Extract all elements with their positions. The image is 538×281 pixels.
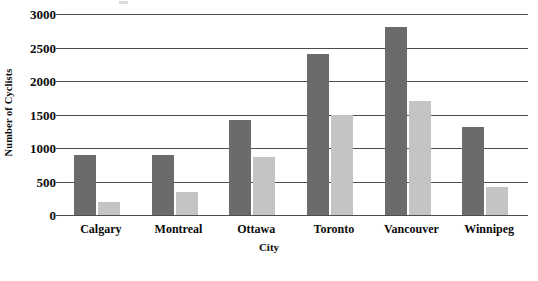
bar [229,120,251,215]
y-tick-label: 1000 [8,142,56,155]
bar [152,155,174,215]
y-tick-label: 2500 [8,41,56,54]
plot-area [62,14,528,215]
bar [486,187,508,215]
y-tick-label: 500 [8,175,56,188]
x-tick-label: Toronto [295,221,373,237]
y-tick-label: 0 [8,209,56,222]
y-axis-tick-labels: 050010001500200025003000 [0,0,56,281]
bar [462,127,484,215]
bar [331,115,353,216]
x-axis-line [62,215,528,216]
bar-chart: Number of Cyclists 050010001500200025003… [0,0,538,281]
bar [74,155,96,215]
y-tick-label: 1500 [8,108,56,121]
bar [409,101,431,215]
x-tick-label: Vancouver [373,221,451,237]
bar-group [140,14,218,215]
bar [176,192,198,215]
bar [385,27,407,215]
top-crop-artifact [119,1,128,4]
y-tick-label: 2000 [8,75,56,88]
bar-group [295,14,373,215]
bar-group [217,14,295,215]
x-axis-tick-labels: CalgaryMontrealOttawaTorontoVancouverWin… [62,221,528,241]
x-tick-label: Calgary [62,221,140,237]
x-tick-label: Ottawa [217,221,295,237]
bar-group [62,14,140,215]
y-tick-label: 3000 [8,8,56,21]
bar [307,54,329,215]
bar-group [373,14,451,215]
bar [98,202,120,215]
x-tick-label: Winnipeg [450,221,528,237]
x-axis-title: City [0,241,538,253]
bars-layer [62,14,528,215]
bar-group [450,14,528,215]
x-tick-label: Montreal [140,221,218,237]
bar [253,157,275,215]
